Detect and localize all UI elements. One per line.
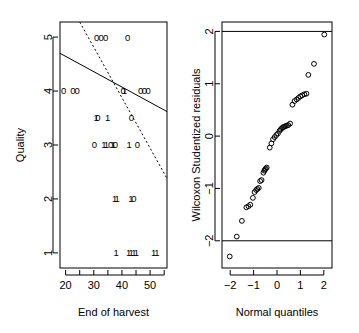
x-tick-label: 30 bbox=[88, 279, 100, 291]
fit-line-solid-fit bbox=[60, 53, 167, 111]
x-axis: −2−1012 bbox=[224, 270, 327, 291]
y-axis: 12345 bbox=[42, 34, 58, 256]
data-point bbox=[306, 72, 311, 77]
qq-plot-svg: −2−1012Wilcoxon Studentized residuals−2−… bbox=[180, 0, 359, 333]
y-axis-title: Quality bbox=[14, 127, 26, 162]
data-point-group bbox=[227, 32, 326, 259]
data-point bbox=[312, 61, 317, 66]
plot-box bbox=[222, 22, 332, 268]
data-point-label: 0 bbox=[61, 85, 66, 96]
data-point-label: 1 bbox=[113, 247, 118, 258]
data-point-label: 0 bbox=[92, 139, 97, 150]
data-point bbox=[234, 234, 239, 239]
data-point-label: 1 bbox=[122, 85, 127, 96]
data-point bbox=[259, 178, 264, 183]
data-point bbox=[250, 195, 255, 200]
data-point-label: 1 bbox=[154, 247, 159, 258]
data-point bbox=[227, 254, 232, 259]
data-point-label: 0 bbox=[135, 139, 140, 150]
x-tick-label: −1 bbox=[247, 279, 260, 291]
y-tick-label: 1 bbox=[203, 81, 215, 87]
x-tick-label: 1 bbox=[297, 279, 303, 291]
x-tick-label: −2 bbox=[224, 279, 237, 291]
data-point-label: 0 bbox=[129, 112, 134, 123]
x-tick-label: 20 bbox=[60, 279, 72, 291]
chart-panel-normal-qq: −2−1012Wilcoxon Studentized residuals−2−… bbox=[180, 0, 359, 333]
quality-scatter-svg: 0000000010001010011010101110111111112345… bbox=[0, 0, 180, 333]
data-point-label: 1 bbox=[105, 112, 110, 123]
y-tick-label: 0 bbox=[203, 133, 215, 139]
data-point-label: 0 bbox=[113, 139, 118, 150]
data-point-label: 0 bbox=[125, 32, 130, 43]
data-point-label: 1 bbox=[134, 247, 139, 258]
y-axis: −2−1012 bbox=[203, 28, 220, 247]
fit-line-dashed-fit bbox=[80, 22, 167, 178]
fitted-lines bbox=[60, 22, 167, 178]
y-tick-label: 5 bbox=[42, 34, 54, 40]
data-point-label: 0 bbox=[75, 85, 80, 96]
data-point bbox=[239, 218, 244, 223]
x-tick-label: 2 bbox=[321, 279, 327, 291]
x-axis: 20304050 bbox=[60, 270, 165, 291]
data-point-label: 0 bbox=[145, 85, 150, 96]
data-point-label: 0 bbox=[95, 112, 100, 123]
data-point-label: 1 bbox=[127, 139, 132, 150]
chart-panel-quality-vs-harvest: 0000000010001010011010101110111111112345… bbox=[0, 0, 180, 333]
data-point-label: 1 bbox=[115, 193, 120, 204]
data-point-label: 0 bbox=[103, 32, 108, 43]
y-tick-label: 2 bbox=[203, 28, 215, 34]
x-axis-title: Normal quantiles bbox=[236, 306, 319, 318]
figure-panel-container: 0000000010001010011010101110111111112345… bbox=[0, 0, 359, 333]
data-point-label: 0 bbox=[131, 193, 136, 204]
x-tick-label: 0 bbox=[274, 279, 280, 291]
y-tick-label: −1 bbox=[203, 182, 215, 195]
y-tick-label: 2 bbox=[42, 196, 54, 202]
data-point-group: 00000000100010100110101011101111111 bbox=[61, 32, 159, 259]
x-axis-title: End of harvest bbox=[78, 306, 149, 318]
y-tick-label: 4 bbox=[42, 88, 54, 94]
data-point bbox=[322, 32, 327, 37]
y-tick-label: 3 bbox=[42, 142, 54, 148]
y-tick-label: 1 bbox=[42, 250, 54, 256]
y-axis-title: Wilcoxon Studentized residuals bbox=[190, 68, 202, 221]
x-tick-label: 40 bbox=[116, 279, 128, 291]
x-tick-label: 50 bbox=[144, 279, 156, 291]
y-tick-label: −2 bbox=[203, 235, 215, 248]
